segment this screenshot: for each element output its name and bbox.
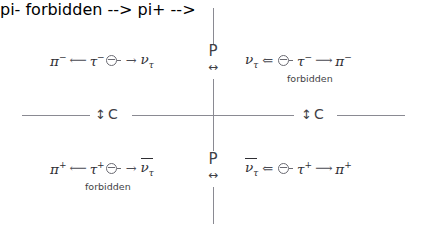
vertical-axis-top	[213, 8, 214, 44]
particle-pion-minus-tl: π−	[50, 52, 66, 69]
particle-tau-plus-bl: τ+	[90, 160, 105, 177]
particle-pion-minus-tr: π−	[335, 52, 351, 69]
horizontal-double-arrow-icon-top: ↔	[200, 61, 226, 73]
spin-circle-icon-bl	[105, 163, 122, 174]
p-symmetry-label-bottom: P ↔	[200, 152, 226, 181]
momentum-arrow-left-br: ⇐	[258, 161, 277, 176]
reaction-bottom-left: π+ ⟵ τ+ → ντ	[50, 159, 154, 178]
particle-neutrino-tau-tr: ντ	[245, 51, 258, 70]
forbidden-label-bottom-left: forbidden	[85, 181, 131, 192]
forbidden-label-top-right: forbidden	[287, 73, 333, 84]
vertical-axis-bottom	[213, 187, 214, 224]
p-symbol-bottom: P	[200, 152, 226, 167]
spin-circle-icon-tr	[277, 55, 294, 66]
reaction-top-left: π− ⟵ τ− → ντ	[50, 51, 154, 70]
vertical-double-arrow-icon-left: ↕	[95, 108, 106, 121]
vertical-double-arrow-icon-right: ↕	[301, 108, 312, 121]
particle-neutrino-tau-tl: ντ	[141, 51, 154, 70]
p-symbol-top: P	[200, 44, 226, 59]
c-symmetry-label-left: ↕ C	[92, 107, 121, 121]
spin-circle-icon-br	[277, 163, 294, 174]
momentum-arrow-left-tr: ⇐	[258, 53, 277, 68]
horizontal-axis-left-inner	[132, 115, 214, 116]
c-symbol-left: C	[108, 107, 118, 121]
particle-tau-minus-tl: τ−	[90, 52, 105, 69]
particle-antineutrino-tau-bl: ντ	[141, 159, 154, 178]
horizontal-double-arrow-icon-bottom: ↔	[200, 169, 226, 181]
particle-tau-minus-tr: τ−	[297, 52, 312, 69]
particle-pion-plus-bl: π+	[50, 160, 66, 177]
reaction-bottom-right: ντ ⇐ τ+ ⟶ π+	[245, 159, 352, 178]
momentum-arrow-right-tl: →	[122, 53, 141, 68]
vertical-axis-lower-mid	[213, 116, 214, 151]
momentum-arrow-right-bl: →	[122, 161, 141, 176]
vertical-axis-upper-mid	[213, 79, 214, 115]
c-symbol-right: C	[314, 107, 324, 121]
c-symmetry-label-right: ↕ C	[298, 107, 327, 121]
particle-tau-plus-br: τ+	[297, 160, 312, 177]
symmetry-diagram: P ↔ P ↔ ↕ C ↕ C π− ⟵ τ− → ντ pi	[0, 0, 428, 231]
horizontal-axis-right-inner	[213, 115, 294, 116]
reaction-top-right: ντ ⇐ τ− ⟶ π−	[245, 51, 352, 70]
particle-pion-plus-br: π+	[335, 160, 351, 177]
spin-circle-icon-tl	[105, 55, 122, 66]
particle-antineutrino-tau-br: ντ	[245, 159, 258, 178]
p-symmetry-label-top: P ↔	[200, 44, 226, 73]
horizontal-axis-far-left	[22, 115, 90, 116]
horizontal-axis-far-right	[337, 115, 405, 116]
